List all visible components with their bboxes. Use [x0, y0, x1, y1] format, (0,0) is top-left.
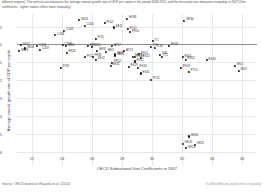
y-gridline [17, 27, 257, 28]
scatter-point[interactable] [188, 70, 190, 72]
scatter-point[interactable] [105, 51, 107, 53]
scatter-plot-area: SK02SK04CZ05CZ07CZ06CZ03CZ08CZ02FR26FI18… [17, 14, 257, 166]
scatter-point-label: ES41 [143, 70, 150, 74]
scatter-point-label: CZ07 [42, 46, 49, 50]
scatter-point[interactable] [128, 66, 130, 68]
scatter-point[interactable] [126, 18, 128, 20]
y-axis-tick-label: -1 [0, 60, 2, 65]
scatter-point-label: PL51 [130, 26, 137, 30]
x-gridline [212, 14, 213, 166]
scatter-point[interactable] [206, 59, 208, 61]
scatter-point-label: CZ02 [68, 43, 75, 47]
x-axis-tick-label: 22 [30, 156, 35, 161]
x-gridline [152, 14, 153, 166]
scatter-point-label: ES12 [137, 58, 144, 62]
scatter-point[interactable] [63, 30, 65, 32]
scatter-point-label: BE3 [108, 48, 114, 52]
scatter-point[interactable] [140, 72, 142, 74]
scatter-point[interactable] [78, 19, 80, 21]
scatter-point-label: FR26 [68, 49, 75, 53]
zero-reference-line [17, 44, 257, 45]
scatter-point[interactable] [185, 147, 187, 149]
scatter-point[interactable] [161, 56, 163, 58]
y-gridline [17, 116, 257, 117]
scatter-point[interactable] [95, 59, 97, 61]
scatter-point[interactable] [137, 67, 139, 69]
scatter-point-label: AT12 [114, 43, 121, 47]
scatter-point-label: PT11 [153, 76, 160, 80]
x-axis-tick-label: 34 [210, 156, 215, 161]
y-gridline [17, 98, 257, 99]
x-gridline [62, 14, 63, 166]
x-axis-tick-label: 32 [180, 156, 185, 161]
x-axis-tick-label: 36 [240, 156, 245, 161]
scatter-point-label: ES53 [183, 64, 190, 68]
scatter-point[interactable] [123, 50, 125, 52]
scatter-point[interactable] [110, 64, 112, 66]
scatter-point[interactable] [114, 54, 116, 56]
scatter-point-label: AT13 [126, 48, 133, 52]
scatter-point[interactable] [127, 28, 129, 30]
scatter-point[interactable] [111, 45, 113, 47]
scatter-point[interactable] [36, 45, 38, 47]
x-gridline [122, 14, 123, 166]
scatter-point-label: HU33 [129, 15, 136, 19]
x-gridline [242, 14, 243, 166]
scatter-point[interactable] [183, 20, 185, 22]
scatter-point[interactable] [54, 34, 56, 36]
scatter-point-label: GR21 [197, 141, 205, 145]
scatter-point-label: IE02 [241, 67, 247, 71]
scatter-point-label: IT1 [155, 38, 159, 42]
x-axis-tick-label: 30 [150, 156, 155, 161]
scatter-point[interactable] [62, 44, 64, 46]
y-gridline [17, 152, 257, 153]
scatter-point-label: GR41 [191, 133, 199, 137]
scatter-point[interactable] [113, 26, 115, 28]
scatter-point[interactable] [65, 45, 67, 47]
scatter-point[interactable] [84, 56, 86, 58]
scatter-point[interactable] [96, 50, 98, 52]
scatter-point-label: GR30 [186, 17, 194, 21]
scatter-point[interactable] [152, 40, 154, 42]
x-gridline [32, 14, 33, 166]
scatter-point-label: SE32 [113, 62, 120, 66]
scatter-point[interactable] [92, 55, 94, 57]
chart-caption: different regions). The vertical axis me… [2, 0, 261, 9]
x-gridline [92, 14, 93, 166]
scatter-point[interactable] [134, 56, 136, 58]
scatter-point[interactable] [18, 50, 20, 52]
x-axis-title: OECD Subnational Gini Coefficients in 20… [17, 166, 257, 171]
scatter-point[interactable] [104, 22, 106, 24]
scatter-point-label: FI18 [63, 64, 69, 68]
scatter-point[interactable] [95, 38, 97, 40]
y-gridline [17, 80, 257, 81]
scatter-point[interactable] [154, 47, 156, 49]
scatter-point[interactable] [39, 49, 41, 51]
scatter-point[interactable] [87, 45, 89, 47]
y-axis-tick-label: -2 [0, 78, 2, 83]
scatter-point-label: PT15 [191, 68, 198, 72]
scatter-point-label: ES43 [209, 57, 216, 61]
scatter-point[interactable] [182, 56, 184, 58]
scatter-point-label: CZ06 [57, 32, 64, 36]
scatter-point[interactable] [238, 70, 240, 72]
scatter-point-label: SK03 [21, 48, 28, 52]
watermark: OurWorldInData.org/income-inequality [205, 182, 261, 186]
scatter-point[interactable] [188, 135, 190, 137]
scatter-point-label: FR82 [95, 53, 102, 57]
scatter-point-label: SE11 [116, 24, 123, 28]
scatter-point[interactable] [182, 143, 184, 145]
scatter-point[interactable] [234, 64, 236, 66]
scatter-point[interactable] [129, 31, 131, 33]
scatter-point[interactable] [65, 52, 67, 54]
scatter-point-label: SE22 [117, 52, 124, 56]
scatter-point[interactable] [185, 59, 187, 61]
source-note: Source: OECD based on Royuela et al. (20… [2, 182, 70, 186]
x-axis-tick-label: 26 [90, 156, 95, 161]
x-axis-tick-label: 24 [60, 156, 65, 161]
scatter-point[interactable] [20, 44, 22, 46]
scatter-point-label: SK01 [81, 17, 88, 21]
scatter-point-label: IT34 [157, 44, 163, 48]
scatter-point[interactable] [168, 45, 170, 47]
scatter-point-label: GR24 [185, 140, 193, 144]
